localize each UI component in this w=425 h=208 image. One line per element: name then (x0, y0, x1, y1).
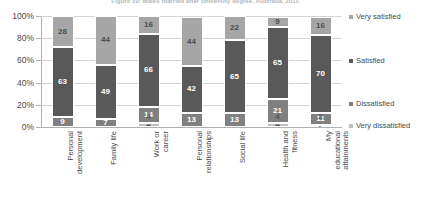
bar-group[interactable]: 134244 (181, 16, 203, 127)
legend-label: Dissatisfied (356, 100, 394, 108)
y-axis-tick-label: 60% (0, 56, 34, 64)
chart-title: Figure 19: Males married after universit… (55, 0, 355, 5)
y-axis-tick-label: 80% (0, 34, 34, 42)
bar-segment[interactable]: 28 (52, 16, 74, 47)
y-axis-tick-label: 40% (0, 79, 34, 87)
legend-item[interactable]: Satisfied (349, 57, 385, 65)
bar-value-label: 22 (230, 24, 239, 32)
below-axis-value-label: 2 (310, 113, 332, 121)
y-axis-tick-label: 100% (0, 12, 34, 20)
bar-segment[interactable]: 16 (138, 16, 160, 34)
bar-value-label: 16 (316, 22, 325, 30)
stacked-bar-chart: Figure 19: Males married after universit… (0, 0, 425, 208)
bar-value-label: 28 (58, 28, 67, 36)
bar-segment[interactable]: 4 (267, 123, 289, 127)
bar-value-label: 65 (230, 73, 239, 81)
bar-segment[interactable]: 4 (138, 123, 160, 127)
bar-segment[interactable]: 44 (95, 16, 117, 65)
bar-segment[interactable]: 2 (310, 125, 332, 127)
legend-color-swatch (349, 124, 353, 128)
bar-group[interactable]: 2117016 (310, 16, 332, 127)
bar-group[interactable]: 136522 (224, 16, 246, 127)
bar-value-label: 49 (101, 88, 110, 96)
bar-group[interactable]: 4146616 (138, 16, 160, 127)
bar-value-label: 44 (101, 36, 110, 44)
y-axis-tick-label: 20% (0, 101, 34, 109)
bar-segment[interactable]: 13 (224, 113, 246, 127)
bar-value-label: 2 (318, 125, 322, 127)
bar-value-label: 66 (144, 66, 153, 74)
legend-label: Very dissatisfied (356, 122, 410, 130)
bar-value-label: 9 (60, 118, 64, 126)
bar-value-label: 7 (103, 119, 107, 127)
legend-label: Satisfied (356, 57, 385, 65)
bar-value-label: 70 (316, 70, 325, 78)
below-axis-value-label: 4 (267, 113, 289, 121)
legend-item[interactable]: Very dissatisfied (349, 122, 410, 130)
bar-segment[interactable]: 9 (267, 17, 289, 27)
bar-segment[interactable]: 13 (181, 113, 203, 127)
bar-segment[interactable]: 65 (267, 27, 289, 99)
plot-area: 9632874944414661613424413652242165921170… (41, 16, 342, 127)
bar-value-label: 65 (273, 59, 282, 67)
bar-segment[interactable]: 49 (95, 65, 117, 119)
bar-segment[interactable]: 63 (52, 47, 74, 117)
legend-label: Very satisfied (356, 13, 401, 21)
bar-segment[interactable]: 16 (310, 17, 332, 35)
bar-segment[interactable]: 42 (181, 66, 203, 113)
bar-value-label: 63 (58, 78, 67, 86)
bar-segment[interactable]: 22 (224, 16, 246, 40)
x-axis-line (41, 127, 342, 128)
bar-segment[interactable]: 70 (310, 35, 332, 113)
bar-value-label: 13 (187, 116, 196, 124)
legend-color-swatch (349, 15, 353, 19)
bar-value-label: 42 (187, 85, 196, 93)
bar-value-label: 9 (275, 18, 279, 26)
bar-segment[interactable]: 9 (52, 117, 74, 127)
bar-segment[interactable]: 7 (95, 119, 117, 127)
bar-group[interactable]: 421659 (267, 16, 289, 127)
below-axis-value-label: 4 (138, 113, 160, 121)
bar-segment[interactable]: 66 (138, 34, 160, 107)
x-axis-category-label: Myeducationalattainments (325, 131, 399, 205)
legend-item[interactable]: Very satisfied (349, 13, 401, 21)
bar-segment[interactable]: 44 (181, 17, 203, 66)
legend-item[interactable]: Dissatisfied (349, 100, 394, 108)
bar-value-label: 4 (275, 123, 279, 127)
y-axis-tick-label: 0% (0, 123, 34, 131)
chart-legend: Very satisfiedSatisfiedDissatisfiedVery … (349, 0, 425, 130)
legend-color-swatch (349, 59, 353, 63)
bar-segment[interactable]: 65 (224, 40, 246, 112)
bar-value-label: 4 (146, 123, 150, 127)
legend-color-swatch (349, 102, 353, 106)
bar-group[interactable]: 74944 (95, 16, 117, 127)
bar-value-label: 13 (230, 116, 239, 124)
bar-value-label: 16 (144, 21, 153, 29)
bar-group[interactable]: 96328 (52, 16, 74, 127)
bar-value-label: 44 (187, 38, 196, 46)
